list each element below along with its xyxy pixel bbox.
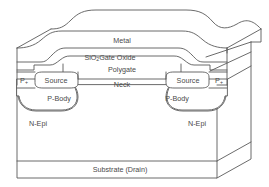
- metal-top-face-left-edge: [17, 29, 51, 48]
- label-p-plus-right-sign: +: [220, 79, 223, 85]
- metal-back-top-wavy-edge: [51, 10, 261, 29]
- label-gate-oxide-rest: Gate Oxide: [99, 53, 135, 62]
- label-gate-oxide: SiO2Gate Oxide: [84, 53, 135, 62]
- label-gate-oxide-group: SiO2Gate Oxide: [84, 53, 135, 62]
- label-substrate-drain: Substrate (Drain): [93, 165, 148, 174]
- label-source-right: Source: [177, 76, 200, 85]
- label-polygate: Polygate: [108, 65, 136, 74]
- label-p-plus-left-sign: +: [25, 79, 28, 85]
- mosfet-cross-section-diagram: Metal SiO2Gate Oxide Polygate Neck Sourc…: [0, 0, 269, 187]
- label-p-plus-right: P+: [215, 76, 223, 85]
- label-p-plus-left: P+: [20, 76, 28, 85]
- label-neck: Neck: [114, 80, 131, 89]
- metal-back-right-corner-edge: [251, 29, 261, 42]
- label-p-body-left: P-Body: [47, 94, 71, 103]
- metal-top-face-right-edge: [227, 29, 261, 48]
- label-metal: Metal: [113, 36, 131, 45]
- label-p-plus-right-group: P+: [215, 76, 223, 85]
- label-p-plus-left-group: P+: [20, 76, 28, 85]
- label-gate-oxide-sio: SiO: [84, 53, 96, 62]
- label-p-body-right: P-Body: [165, 94, 189, 103]
- diagram-canvas: Metal SiO2Gate Oxide Polygate Neck Sourc…: [0, 0, 269, 187]
- label-n-epi-left: N-Epi: [29, 119, 47, 128]
- label-n-epi-right: N-Epi: [188, 119, 206, 128]
- substrate-depth-edge: [217, 142, 251, 161]
- label-source-left: Source: [45, 76, 68, 85]
- depth-division-line-2: [210, 52, 251, 71]
